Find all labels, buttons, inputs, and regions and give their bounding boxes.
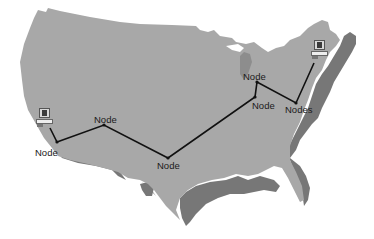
node-label-3: Node (157, 161, 180, 171)
computer-icon-west (36, 108, 54, 128)
node-label-6: Nodes (285, 105, 312, 115)
node-label-4: Node (252, 101, 275, 111)
us-map (0, 0, 374, 239)
node-label-5: Node (243, 72, 266, 82)
network-map-diagram: Node Node Node Node Node Nodes (0, 0, 374, 239)
computer-icon-east (311, 40, 329, 60)
node-label-1: Node (35, 148, 58, 158)
node-label-2: Node (94, 115, 117, 125)
